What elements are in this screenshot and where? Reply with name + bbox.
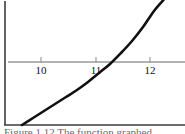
figure-caption-clipped: Figure 1.12 The function graphed — [0, 127, 185, 134]
figure-caption-text: Figure 1.12 The function graphed — [4, 127, 152, 134]
graph-figure: 10 11 12 Figure 1.12 The function graphe… — [0, 0, 185, 134]
x-tick-label-10: 10 — [36, 65, 47, 76]
x-tick-label-11: 11 — [91, 65, 102, 76]
x-tick-label-12: 12 — [145, 65, 156, 76]
